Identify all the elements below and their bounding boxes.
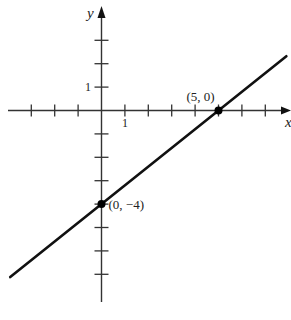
axes: [8, 6, 291, 302]
point-label: (0, −4): [109, 197, 145, 212]
coordinate-plane: (5, 0)(0, −4) x y 1 1: [0, 0, 291, 320]
y-tick-label-1: 1: [85, 80, 91, 94]
line-series: [10, 56, 286, 277]
point-marker: [98, 200, 106, 208]
y-axis-arrow-icon: [98, 6, 106, 18]
data-line: [10, 56, 286, 277]
tick-marks: [31, 40, 265, 274]
point-marker: [215, 107, 223, 115]
x-axis-label: x: [284, 114, 291, 130]
y-axis-label: y: [85, 5, 94, 21]
point-label: (5, 0): [187, 89, 215, 104]
x-tick-label-1: 1: [122, 116, 128, 130]
